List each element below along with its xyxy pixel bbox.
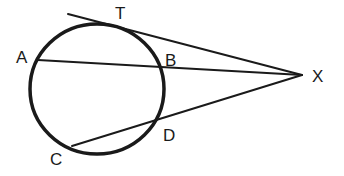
label-D: D bbox=[163, 126, 175, 145]
tangent-XT bbox=[68, 14, 302, 75]
circle-secant-tangent-diagram: T A B C D X bbox=[0, 0, 344, 176]
secant-XC bbox=[72, 75, 302, 146]
label-B: B bbox=[165, 51, 176, 70]
label-C: C bbox=[50, 150, 62, 169]
label-T: T bbox=[115, 4, 125, 23]
label-A: A bbox=[16, 48, 28, 67]
circle bbox=[30, 24, 164, 154]
label-X: X bbox=[312, 67, 323, 86]
